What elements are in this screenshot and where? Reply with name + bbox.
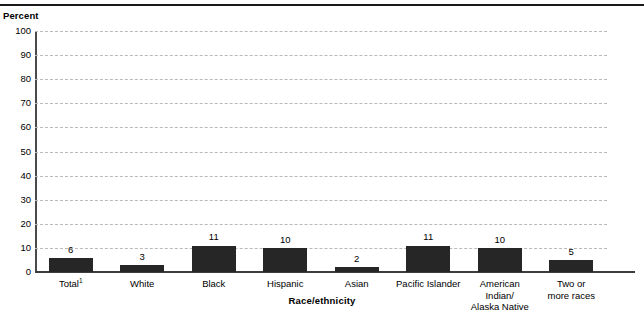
bar-value-label: 11	[408, 231, 448, 242]
bar-value-label: 11	[194, 231, 234, 242]
bar[interactable]	[549, 260, 593, 272]
gridline-20	[35, 224, 607, 225]
x-category-label-text: Total	[59, 278, 79, 289]
y-tick-label-40: 40	[3, 170, 31, 181]
plot-area	[35, 31, 607, 272]
gridline-60	[35, 127, 607, 128]
x-category-label-text: Pacific Islander	[396, 278, 460, 289]
gridline-50	[35, 152, 607, 153]
y-tick-label-70: 70	[3, 97, 31, 108]
bar[interactable]	[49, 258, 93, 272]
x-category-label-text: Asian	[345, 278, 369, 289]
bar-value-label: 10	[480, 234, 520, 245]
x-category-label-text: White	[130, 278, 154, 289]
y-tick-label-0: 0	[3, 266, 31, 277]
y-axis-title: Percent	[3, 10, 39, 21]
gridline-70	[35, 103, 607, 104]
bar[interactable]	[120, 265, 164, 272]
bar[interactable]	[478, 248, 522, 272]
bar[interactable]	[192, 246, 236, 273]
x-category-label-text: American Indian/ Alaska Native	[471, 278, 529, 312]
gridline-100	[35, 31, 607, 32]
y-tick-label-100: 100	[3, 25, 31, 36]
gridline-80	[35, 79, 607, 80]
y-tick-label-20: 20	[3, 218, 31, 229]
y-tick-label-30: 30	[3, 194, 31, 205]
bar-value-label: 6	[51, 244, 91, 255]
gridline-40	[35, 176, 607, 177]
y-tick-label-50: 50	[3, 146, 31, 157]
y-tick-label-80: 80	[3, 73, 31, 84]
bar-value-label: 2	[337, 253, 377, 264]
x-category-label-text: Two or more races	[547, 278, 595, 301]
y-tick-label-10: 10	[3, 242, 31, 253]
gridline-30	[35, 200, 607, 201]
x-category-label: Two or more races	[526, 278, 616, 301]
y-tick-label-60: 60	[3, 121, 31, 132]
bar-value-label: 3	[122, 251, 162, 262]
bar-value-label: 5	[551, 246, 591, 257]
x-category-label-text: Hispanic	[267, 278, 303, 289]
bar[interactable]	[263, 248, 307, 272]
bar-chart-figure: Percent Race/ethnicity 10090807060504030…	[0, 0, 644, 319]
bar-value-label: 10	[265, 234, 305, 245]
x-category-label-text: Black	[202, 278, 225, 289]
gridline-90	[35, 55, 607, 56]
footnote-marker: 1	[79, 277, 83, 284]
bar[interactable]	[406, 246, 450, 273]
bar[interactable]	[335, 267, 379, 272]
y-tick-label-90: 90	[3, 49, 31, 60]
top-rule-divider	[0, 4, 644, 6]
